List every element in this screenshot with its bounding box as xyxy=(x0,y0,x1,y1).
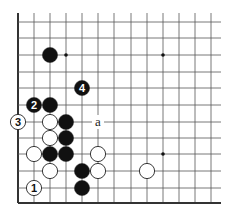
star-point xyxy=(161,152,165,156)
white-stone xyxy=(42,130,57,145)
stones: 4231 xyxy=(10,47,154,195)
white-stone xyxy=(26,146,41,161)
black-stone xyxy=(58,130,73,145)
white-stone xyxy=(90,146,105,161)
black-stone xyxy=(74,163,89,178)
black-stone: 2 xyxy=(26,97,41,112)
black-stone: 4 xyxy=(74,80,89,95)
black-stone xyxy=(42,146,57,161)
move-number: 3 xyxy=(15,116,21,128)
move-number: 2 xyxy=(31,99,37,111)
white-stone xyxy=(139,163,154,178)
star-point xyxy=(161,53,165,57)
white-stone xyxy=(90,163,105,178)
white-stone xyxy=(42,114,57,129)
black-stone xyxy=(58,146,73,161)
white-stone: 3 xyxy=(10,114,25,129)
black-stone xyxy=(42,47,57,62)
go-board: a 4231 xyxy=(0,0,231,216)
black-stone xyxy=(74,180,89,195)
white-stone xyxy=(42,163,57,178)
star-point xyxy=(64,53,68,57)
star-points xyxy=(64,53,165,156)
black-stone xyxy=(58,114,73,129)
white-stone: 1 xyxy=(26,180,41,195)
move-number: 4 xyxy=(79,82,86,94)
marker-label-a: a xyxy=(95,114,101,129)
position-markers: a xyxy=(92,114,104,129)
move-number: 1 xyxy=(31,182,37,194)
black-stone xyxy=(42,97,57,112)
